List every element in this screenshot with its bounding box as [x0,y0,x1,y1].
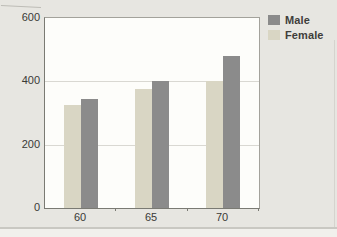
scan-artifact-top-line [1,5,41,8]
y-tick-label-400: 400 [0,74,42,86]
x-axis-tick [115,208,116,211]
y-tick-label-200: 200 [0,138,42,150]
legend-item-female: Female [268,29,324,41]
bar-male-60 [81,99,98,208]
x-axis-tick [187,208,188,211]
scan-artifact-bottom-fade [0,229,337,237]
x-tick-label-65: 65 [131,211,171,223]
bar-male-65 [152,81,169,208]
bar-female-65 [135,89,152,208]
male-series-swatch [268,15,280,25]
chart-legend: Male Female [268,14,324,41]
female-series-swatch [268,30,280,40]
bar-female-60 [64,105,81,208]
bar-female-70 [206,81,223,208]
scan-artifact-right-edge [334,40,335,237]
scanned-bar-chart-figure: 0200400600 606570 Male Female [0,0,337,237]
legend-item-male: Male [268,14,324,26]
plot-area [44,17,260,209]
x-tick-label-60: 60 [60,211,100,223]
bar-male-70 [223,56,240,208]
x-axis-tick [258,208,259,211]
legend-label-female: Female [285,29,324,41]
y-tick-label-0: 0 [0,201,42,213]
x-tick-label-70: 70 [202,211,242,223]
y-tick-label-600: 600 [0,11,42,23]
legend-label-male: Male [285,14,310,26]
